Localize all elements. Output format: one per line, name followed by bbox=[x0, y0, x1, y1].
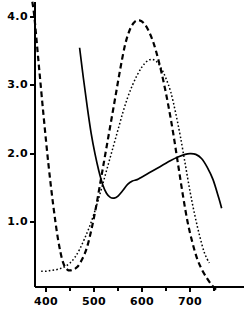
x-tick-label-500: 500 bbox=[74, 295, 114, 308]
y-tick-label-2.0: 2.0 bbox=[0, 147, 28, 160]
chart-series-solid-curve bbox=[80, 48, 222, 209]
x-tick-label-400: 400 bbox=[26, 295, 66, 308]
chart-series-dashed-curve bbox=[31, 0, 217, 290]
y-tick-label-4.0: 4.0 bbox=[0, 10, 28, 23]
y-tick-label-1.0: 1.0 bbox=[0, 215, 28, 228]
chart-series-dotted-curve bbox=[41, 59, 209, 271]
chart-axes bbox=[30, 2, 244, 292]
chart-container: 1.02.03.04.0400500600700 bbox=[0, 0, 250, 312]
chart-series-group bbox=[31, 0, 222, 290]
x-tick-label-700: 700 bbox=[170, 295, 210, 308]
chart-plot-area bbox=[0, 0, 250, 312]
x-tick-label-600: 600 bbox=[122, 295, 162, 308]
y-tick-label-3.0: 3.0 bbox=[0, 78, 28, 91]
